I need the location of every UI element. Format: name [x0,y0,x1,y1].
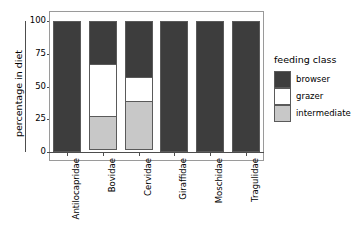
legend-label: intermediate [296,108,351,118]
legend-label: browser [296,74,330,84]
x-tick-label-moschidae: Moschidae [214,158,224,203]
bar-segment-browser[interactable] [89,21,117,65]
plot-area [49,21,264,152]
y-tick-label: 50 [24,82,46,91]
bar-segment-intermediate[interactable] [125,101,153,150]
chart-figure: percentage in diet 1007550250 Antilocapr… [0,0,362,242]
legend-item-grazer[interactable]: grazer [274,87,360,104]
bar-tragulidae[interactable] [232,21,260,152]
bar-segment-browser[interactable] [160,21,188,152]
x-tick-label-antilocapridae: Antilocapridae [71,158,81,219]
x-tick-mark [67,152,68,156]
bar-segment-browser[interactable] [53,21,81,152]
legend-swatch-grazer [274,88,291,105]
y-tick-label: 25 [24,114,46,123]
bar-bovidae[interactable] [89,21,117,152]
bar-segment-browser[interactable] [196,21,224,152]
x-tick-mark [139,152,140,156]
x-tick-label-tragulidae: Tragulidae [250,158,260,202]
bar-segment-grazer[interactable] [89,64,117,117]
x-tick-mark [246,152,247,156]
legend-title: feeding class [274,54,360,65]
bar-moschidae[interactable] [196,21,224,152]
legend: feeding class browsergrazerintermediate [274,54,360,121]
y-axis: 1007550250 [20,0,46,242]
bar-segment-grazer[interactable] [125,77,153,102]
bar-segment-intermediate[interactable] [89,116,117,150]
bar-giraffidae[interactable] [160,21,188,152]
bar-cervidae[interactable] [125,21,153,152]
legend-item-intermediate[interactable]: intermediate [274,104,360,121]
x-tick-mark [210,152,211,156]
x-tick-mark [174,152,175,156]
x-tick-mark [103,152,104,156]
x-tick-label-cervidae: Cervidae [143,158,153,196]
y-tick-label: 0 [24,147,46,156]
bar-segment-browser[interactable] [125,21,153,78]
x-axis-line [49,152,264,153]
legend-swatch-intermediate [274,105,291,122]
x-tick-label-giraffidae: Giraffidae [178,158,188,200]
y-tick-label: 100 [24,16,46,25]
legend-label: grazer [296,91,323,101]
legend-items: browsergrazerintermediate [274,70,360,121]
bar-segment-browser[interactable] [232,21,260,152]
x-tick-label-bovidae: Bovidae [107,158,117,192]
legend-item-browser[interactable]: browser [274,70,360,87]
bar-antilocapridae[interactable] [53,21,81,152]
y-tick-label: 75 [24,49,46,58]
legend-swatch-browser [274,71,291,88]
